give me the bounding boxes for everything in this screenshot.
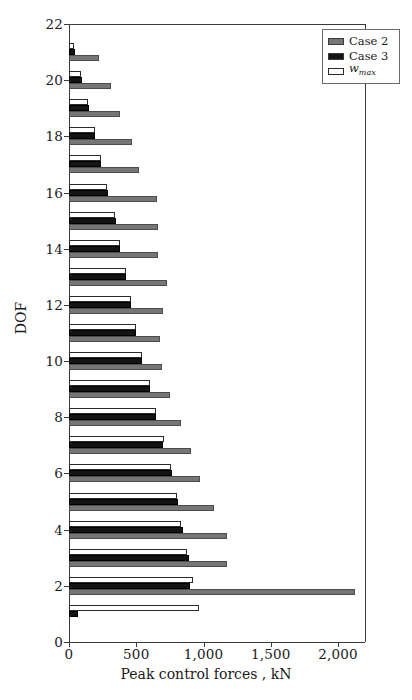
x-tick-mark xyxy=(338,642,339,647)
bar-case-2-dof-10 xyxy=(69,364,162,370)
bar-case-2-dof-18 xyxy=(69,139,132,145)
bar-case-3-dof-5 xyxy=(69,499,178,505)
bar-case-2-dof-13 xyxy=(69,280,167,286)
bar-w-max-dof-6 xyxy=(69,464,171,470)
y-tick-label: 22 xyxy=(0,17,63,31)
bar-case-2-dof-5 xyxy=(69,505,214,511)
y-tick-label: 18 xyxy=(0,129,63,143)
bar-case-3-dof-8 xyxy=(69,414,156,420)
bar-case-3-dof-20 xyxy=(69,77,82,83)
y-tick-label: 14 xyxy=(0,242,63,256)
legend-label: Case 2 xyxy=(349,35,388,47)
bar-case-3-dof-16 xyxy=(69,190,108,196)
bar-case-2-dof-15 xyxy=(69,224,158,230)
legend-swatch xyxy=(328,38,344,45)
x-tick-mark xyxy=(204,642,205,647)
x-axis-line xyxy=(69,642,365,643)
x-tick-mark xyxy=(69,642,70,647)
bar-case-2-dof-19 xyxy=(69,111,120,117)
bar-w-max-dof-18 xyxy=(69,127,95,133)
bar-case-3-dof-12 xyxy=(69,302,131,308)
bar-w-max-dof-14 xyxy=(69,240,120,246)
bar-w-max-dof-16 xyxy=(69,184,107,190)
chart-figure: DOF Peak control forces , kN 02468101214… xyxy=(0,0,412,700)
bar-w-max-dof-9 xyxy=(69,380,150,386)
bar-w-max-dof-17 xyxy=(69,155,101,161)
legend-swatch xyxy=(328,68,344,75)
bar-case-3-dof-6 xyxy=(69,470,172,476)
bar-w-max-dof-11 xyxy=(69,324,136,330)
bar-case-2-dof-4 xyxy=(69,533,227,539)
bar-w-max-dof-7 xyxy=(69,436,164,442)
bar-case-2-dof-20 xyxy=(69,83,111,89)
bar-case-2-dof-8 xyxy=(69,420,181,426)
chart-legend: Case 2Case 3wmax xyxy=(322,29,400,84)
x-tick-label: 2,000 xyxy=(303,646,373,662)
legend-swatch xyxy=(328,53,344,60)
y-tick-label: 12 xyxy=(0,298,63,312)
bar-case-3-dof-14 xyxy=(69,246,120,252)
y-tick-mark xyxy=(64,24,69,25)
x-tick-label: 0 xyxy=(34,646,104,662)
bar-case-3-dof-2 xyxy=(69,583,190,589)
bar-case-3-dof-3 xyxy=(69,555,189,561)
right-spine xyxy=(365,24,366,642)
bar-case-2-dof-21 xyxy=(69,55,99,61)
bar-w-max-dof-4 xyxy=(69,521,181,527)
x-tick-mark xyxy=(136,642,137,647)
y-tick-label: 20 xyxy=(0,73,63,87)
bar-case-2-dof-3 xyxy=(69,561,227,567)
bar-w-max-dof-13 xyxy=(69,268,126,274)
bar-case-3-dof-13 xyxy=(69,274,126,280)
legend-item: wmax xyxy=(328,64,394,78)
legend-label: Case 3 xyxy=(349,50,388,62)
bar-w-max-dof-21 xyxy=(69,43,74,49)
bar-case-3-dof-18 xyxy=(69,133,95,139)
y-axis-title: DOF xyxy=(13,283,29,353)
x-tick-label: 1,500 xyxy=(236,646,306,662)
bar-case-2-dof-17 xyxy=(69,167,139,173)
bar-case-3-dof-19 xyxy=(69,105,89,111)
bar-w-max-dof-2 xyxy=(69,577,193,583)
bar-case-3-dof-7 xyxy=(69,442,163,448)
bar-case-3-dof-4 xyxy=(69,527,183,533)
bar-case-2-dof-9 xyxy=(69,392,170,398)
bar-w-max-dof-8 xyxy=(69,408,156,414)
bar-case-2-dof-2 xyxy=(69,589,355,595)
x-tick-mark xyxy=(271,642,272,647)
legend-item: Case 2 xyxy=(328,34,394,48)
bar-w-max-dof-1 xyxy=(69,605,199,611)
bar-case-3-dof-1 xyxy=(69,611,78,617)
bar-w-max-dof-20 xyxy=(69,71,81,77)
bar-case-2-dof-6 xyxy=(69,476,200,482)
bar-case-3-dof-10 xyxy=(69,358,142,364)
bar-w-max-dof-12 xyxy=(69,296,131,302)
bar-case-2-dof-7 xyxy=(69,448,191,454)
bar-w-max-dof-15 xyxy=(69,212,115,218)
x-tick-label: 500 xyxy=(101,646,171,662)
bar-case-3-dof-15 xyxy=(69,218,116,224)
legend-item: Case 3 xyxy=(328,49,394,63)
y-tick-label: 6 xyxy=(0,466,63,480)
y-tick-label: 8 xyxy=(0,410,63,424)
bar-case-3-dof-21 xyxy=(69,49,75,55)
y-tick-label: 2 xyxy=(0,579,63,593)
legend-label: wmax xyxy=(349,62,376,79)
x-axis-title: Peak control forces , kN xyxy=(0,666,412,682)
bar-w-max-dof-10 xyxy=(69,352,142,358)
bar-case-3-dof-17 xyxy=(69,161,101,167)
bar-case-3-dof-11 xyxy=(69,330,136,336)
bar-case-2-dof-12 xyxy=(69,308,163,314)
bar-case-2-dof-11 xyxy=(69,336,160,342)
bar-case-3-dof-9 xyxy=(69,386,150,392)
x-tick-label: 1,000 xyxy=(169,646,239,662)
bar-case-2-dof-16 xyxy=(69,196,157,202)
bar-w-max-dof-19 xyxy=(69,99,88,105)
y-tick-label: 10 xyxy=(0,354,63,368)
bar-w-max-dof-3 xyxy=(69,549,187,555)
bar-case-2-dof-14 xyxy=(69,252,158,258)
y-tick-label: 16 xyxy=(0,186,63,200)
bar-w-max-dof-5 xyxy=(69,493,177,499)
y-tick-label: 4 xyxy=(0,523,63,537)
